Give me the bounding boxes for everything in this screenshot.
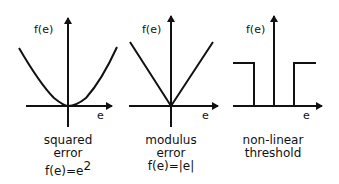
modulus-error-caption: modulus error f(e)=|e| [116,134,226,173]
squared-error-caption: squared error f(e)=e2 [13,134,123,178]
x-axis-label: e [202,110,209,122]
formula: f(e)=e2 [13,160,123,178]
caption-line: error [13,147,123,160]
formula: f(e)=|e| [116,160,226,173]
x-axis-label: e [303,110,310,122]
y-axis-label: f(e) [142,24,161,36]
y-axis-label: f(e) [246,24,265,36]
caption-line: threshold [218,147,328,160]
formula-exponent: 2 [83,159,91,173]
x-axis-label: e [97,110,104,122]
formula-base: f(e)=e [45,164,83,178]
step-left [233,63,254,106]
step-right [294,63,316,106]
threshold-caption: non-linear threshold [218,134,328,160]
y-axis-label: f(e) [34,24,53,36]
